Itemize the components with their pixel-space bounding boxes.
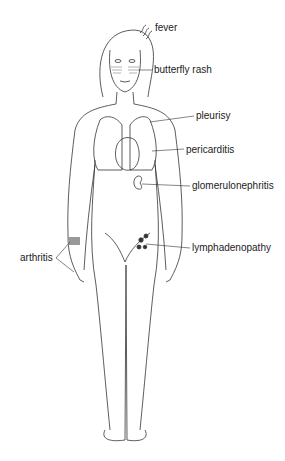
wrist-arthritis-shading xyxy=(68,237,80,245)
label-glomerulonephritis: glomerulonephritis xyxy=(192,181,274,191)
lungs xyxy=(94,117,157,170)
label-lymphadenopathy: lymphadenopathy xyxy=(192,243,271,253)
label-pericarditis: pericarditis xyxy=(186,145,234,155)
label-butterfly-rash: butterfly rash xyxy=(154,65,212,75)
body-figure xyxy=(0,0,285,461)
butterfly-rash-shading xyxy=(111,67,139,73)
arm-inner-left xyxy=(84,165,95,270)
lymph-nodes xyxy=(137,234,148,249)
heart xyxy=(115,138,139,171)
label-arthritis: arthritis xyxy=(20,253,53,263)
kidney xyxy=(134,176,142,189)
label-pleurisy: pleurisy xyxy=(196,111,230,121)
label-fever: fever xyxy=(155,23,177,33)
face xyxy=(110,50,141,92)
hair xyxy=(100,30,154,97)
mouth xyxy=(120,81,130,82)
arm-inner-right xyxy=(155,165,166,270)
eyes xyxy=(115,60,135,63)
leg-inner xyxy=(125,265,127,440)
